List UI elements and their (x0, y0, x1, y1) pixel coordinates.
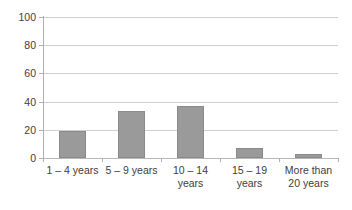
bar-chart: 100 80 60 40 20 0 1 – 4 years 5 – 9 year… (0, 0, 352, 210)
y-tick-60 (39, 73, 43, 74)
gridline-80 (43, 45, 338, 46)
x-tick-3 (220, 158, 221, 162)
bar-more-than-20-years (295, 154, 322, 158)
y-tick-20 (39, 130, 43, 131)
x-axis-labels: 1 – 4 years 5 – 9 years 10 – 14 years 15… (43, 164, 338, 204)
x-tick-2 (161, 158, 162, 162)
y-axis-label-80: 80 (0, 40, 36, 51)
gridline-100 (43, 17, 338, 18)
x-tick-0 (43, 158, 44, 162)
y-axis-label-60: 60 (0, 68, 36, 79)
plot-area (43, 17, 338, 158)
y-tick-100 (39, 17, 43, 18)
gridline-40 (43, 102, 338, 103)
y-axis-label-20: 20 (0, 125, 36, 136)
x-axis-label-15-19-years: 15 – 19 years (220, 164, 279, 204)
x-axis-label-10-14-years: 10 – 14 years (161, 164, 220, 204)
x-axis-label-more-than-20-years: More than 20 years (279, 164, 338, 204)
bar-5-9-years (118, 111, 145, 158)
bar-10-14-years (177, 106, 204, 158)
y-axis-label-40: 40 (0, 97, 36, 108)
x-axis-label-1-4-years: 1 – 4 years (43, 164, 102, 204)
gridline-60 (43, 73, 338, 74)
x-tick-1 (102, 158, 103, 162)
y-axis-label-100: 100 (0, 12, 36, 23)
x-tick-5 (338, 158, 339, 162)
x-axis-label-5-9-years: 5 – 9 years (102, 164, 161, 204)
y-tick-40 (39, 102, 43, 103)
bar-15-19-years (236, 148, 263, 158)
axis-baseline (43, 158, 338, 159)
y-tick-80 (39, 45, 43, 46)
y-axis-label-0: 0 (0, 153, 36, 164)
x-tick-4 (279, 158, 280, 162)
bar-1-4-years (59, 131, 86, 158)
y-axis-line (43, 16, 44, 159)
